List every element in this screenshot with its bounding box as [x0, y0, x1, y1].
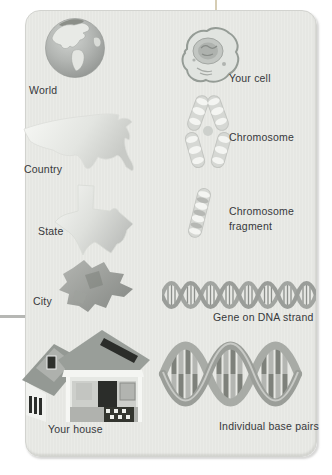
state-label: State — [38, 225, 64, 237]
city-label: City — [33, 295, 52, 307]
texas-map-icon — [53, 183, 135, 257]
city-map-icon — [55, 256, 137, 316]
world-label: World — [29, 84, 57, 96]
house-label: Your house — [48, 423, 103, 435]
base-pairs-label: Individual base pairs — [219, 420, 319, 432]
chromosome-label: Chromosome — [229, 131, 294, 143]
globe-icon — [44, 16, 106, 80]
left-connector-line — [0, 315, 25, 318]
country-label: Country — [24, 163, 62, 175]
house-icon — [20, 320, 154, 424]
gene-label: Gene on DNA strand — [213, 311, 314, 323]
chromosome-fragment-label: Chromosome fragment — [229, 204, 313, 234]
dna-base-pairs-icon — [157, 327, 309, 421]
dna-gene-strand-icon — [162, 276, 316, 314]
cell-label: Your cell — [229, 72, 271, 84]
figure-canvas: World Country State — [0, 0, 332, 475]
chromosome-icon — [184, 92, 232, 170]
chromosome-fragment-icon — [186, 186, 214, 240]
